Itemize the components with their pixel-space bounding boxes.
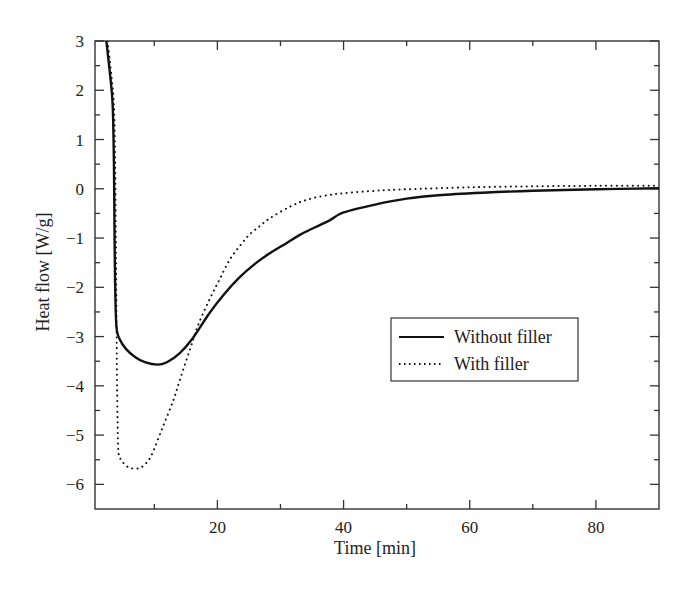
plot-border (95, 41, 659, 509)
heat-flow-chart: 20406080 3210−1−2−3−4−5−6 Time [min] Hea… (0, 0, 686, 593)
x-tick-label: 20 (209, 518, 226, 537)
y-tick-label: −5 (66, 426, 84, 445)
legend: Without filler With filler (391, 318, 578, 381)
y-tick-label: 0 (76, 180, 85, 199)
y-tick-label: −6 (66, 475, 84, 494)
plot-area (95, 41, 659, 509)
x-tick-label: 60 (461, 518, 478, 537)
y-tick-label: 2 (76, 81, 85, 100)
y-axis-tick-labels: 3210−1−2−3−4−5−6 (66, 32, 85, 494)
y-tick-label: 1 (76, 131, 85, 150)
y-tick-label: −4 (66, 377, 85, 396)
y-tick-label: −1 (66, 229, 84, 248)
series-with-filler-line (108, 41, 659, 469)
y-tick-label: −2 (66, 278, 84, 297)
legend-label-with-filler: With filler (454, 354, 529, 374)
x-tick-label: 40 (335, 518, 352, 537)
x-tick-label: 80 (587, 518, 604, 537)
y-tick-label: −3 (66, 328, 84, 347)
axis-ticks (95, 41, 659, 509)
series-without-filler-line (106, 41, 659, 365)
y-tick-label: 3 (76, 32, 85, 51)
series-layer (106, 41, 659, 469)
x-axis-title: Time [min] (334, 538, 416, 558)
y-axis-title: Heat flow [W/g] (33, 213, 53, 332)
x-axis-tick-labels: 20406080 (209, 518, 605, 537)
legend-label-without-filler: Without filler (454, 327, 552, 347)
